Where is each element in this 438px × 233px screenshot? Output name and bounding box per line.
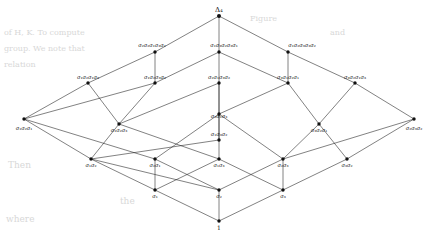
node-label: σ₂ (216, 193, 222, 199)
node-label: σ₂σ₂σ₁σ₃σ₂ (138, 42, 166, 48)
lattice-node[interactable] (153, 157, 156, 160)
node-label: σ₂σ₃ (277, 162, 288, 168)
lattice-edge (24, 119, 91, 159)
lattice-node[interactable] (217, 14, 221, 18)
node-label: σ₁σ₂σ₃σ₃σ₂ (288, 42, 316, 48)
lattice-edge (119, 124, 219, 159)
node-label: σ₃σ₂ (341, 162, 352, 168)
node-label: σ₃ (280, 193, 286, 199)
lattice-node[interactable] (281, 188, 284, 191)
lattice-node[interactable] (217, 138, 220, 141)
lattice-svg: 1σ₁σ₂σ₃σ₁σ₂σ₂σ₁σ₁σ₃σ₂σ₃σ₃σ₂σ₁σ₂σ₁σ₁σ₂σ₃σ… (0, 0, 438, 233)
lattice-edge (24, 119, 155, 159)
lattice-edge (219, 190, 283, 221)
node-label: Δ₄ (215, 6, 223, 14)
lattice-node[interactable] (317, 122, 320, 125)
lattice-edge (347, 119, 414, 159)
lattice-node[interactable] (117, 122, 120, 125)
lattice-node[interactable] (412, 117, 415, 120)
lattice-node[interactable] (217, 219, 220, 222)
lattice-node[interactable] (286, 81, 289, 84)
lattice-node[interactable] (22, 117, 25, 120)
lattice-edge (219, 83, 288, 114)
lattice-node[interactable] (153, 188, 156, 191)
lattice-edge (283, 119, 414, 159)
lattice-node[interactable] (281, 157, 284, 160)
lattice-diagram: 1σ₁σ₂σ₃σ₁σ₂σ₂σ₁σ₁σ₃σ₂σ₃σ₃σ₂σ₁σ₂σ₁σ₁σ₂σ₃σ… (0, 0, 438, 233)
lattice-node[interactable] (153, 81, 156, 84)
lattice-node[interactable] (153, 50, 156, 53)
lattice-edge (119, 83, 155, 124)
lattice-edge (119, 83, 219, 124)
node-label: σ₁σ₂ (85, 162, 96, 168)
node-label: σ₃σ₂σ₁ (311, 127, 328, 133)
node-label: σ₂σ₃σ₂ (406, 125, 423, 131)
node-label: σ₁ (152, 193, 158, 199)
node-label: σ₁σ₃ (213, 162, 224, 168)
lattice-node[interactable] (286, 50, 289, 53)
node-label: σ₁σ₃σ₂ (211, 131, 228, 137)
lattice-edge (24, 83, 88, 119)
node-label: σ₂σ₁σ₃ (211, 113, 228, 119)
lattice-node[interactable] (217, 157, 220, 160)
lattice-node[interactable] (217, 188, 220, 191)
lattice-edge (355, 83, 414, 119)
lattice-node[interactable] (353, 81, 356, 84)
lattice-edge (288, 83, 319, 124)
lattice-edge (155, 190, 219, 221)
lattice-node[interactable] (345, 157, 348, 160)
node-label: σ₁σ₂σ₁ (16, 125, 33, 131)
node-label: σ₁σ₂σ₃ (111, 127, 128, 133)
lattice-node[interactable] (217, 50, 220, 53)
node-label: σ₃σ₂σ₁σ₃ (344, 74, 366, 80)
node-label: 1 (217, 224, 221, 231)
node-label: σ₂σ₁σ₃σ₂ (208, 74, 230, 80)
lattice-node[interactable] (217, 81, 220, 84)
lattice-node[interactable] (86, 81, 89, 84)
lattice-edge (88, 83, 119, 124)
lattice-node[interactable] (89, 157, 92, 160)
node-label: σ₁σ₃σ₂σ₃σ₁ (210, 42, 238, 48)
lattice-edge (24, 83, 155, 119)
node-label: σ₃σ₁σ₂σ₁ (277, 74, 299, 80)
lattice-edge (319, 83, 355, 124)
node-label: σ₁σ₂σ₁σ₃ (77, 74, 99, 80)
lattice-edge (219, 114, 283, 159)
node-label: σ₂σ₁ (149, 162, 160, 168)
lattice-edge (283, 159, 347, 190)
lattice-edge (91, 140, 219, 159)
node-label: σ₁σ₂σ₃σ₂ (144, 74, 166, 80)
lattice-edge (155, 114, 219, 159)
lattice-edge (91, 159, 155, 190)
